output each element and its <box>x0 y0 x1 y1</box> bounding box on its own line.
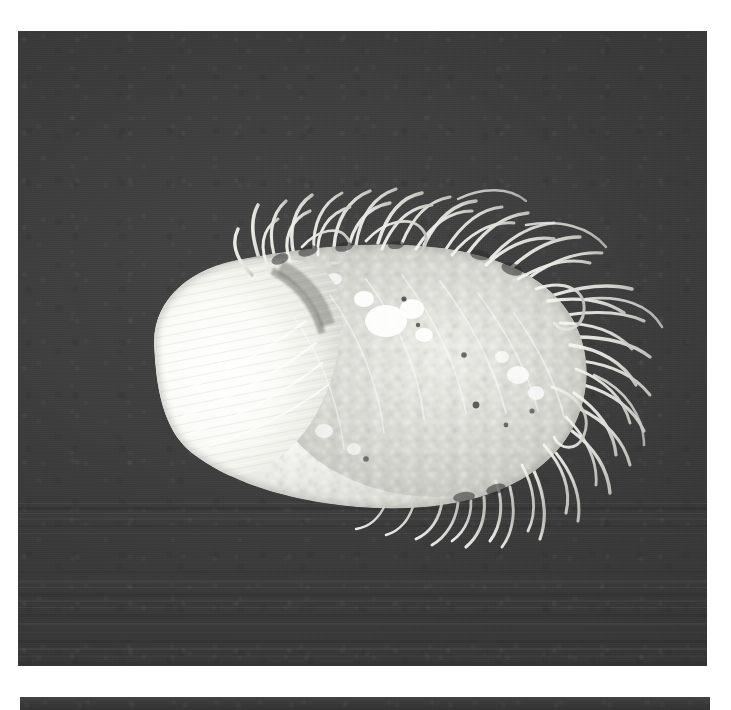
lower-plate-edge <box>20 697 710 710</box>
hairy-ovoid-specimen <box>66 149 666 549</box>
strip-background-grain <box>20 697 710 710</box>
specimen-body <box>126 229 666 529</box>
primary-micrograph <box>18 31 707 666</box>
page-root <box>0 0 731 710</box>
